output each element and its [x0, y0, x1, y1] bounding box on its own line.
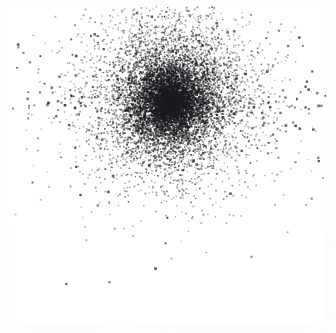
plot-frame	[9, 5, 326, 326]
figure-root	[0, 0, 336, 333]
scatter-point-cloud	[9, 5, 326, 326]
